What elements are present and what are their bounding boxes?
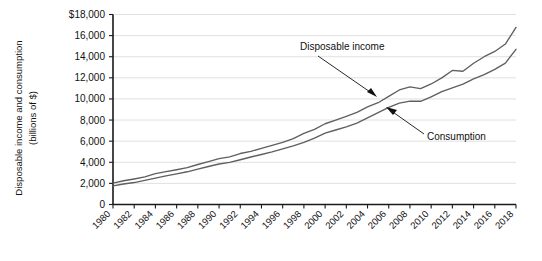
x-tick-label: 1998 [281, 208, 304, 231]
y-axis-label: Disposable income and consumption (billi… [13, 40, 38, 195]
x-tick-label: 1980 [90, 208, 113, 231]
y-tick-label: 14,000 [74, 51, 105, 62]
x-tick-label: 2006 [365, 208, 388, 231]
y-tick-label: 8,000 [80, 115, 105, 126]
x-tick-label: 2012 [429, 208, 452, 231]
x-tick-label: 2016 [471, 208, 494, 231]
x-tick-label: 1990 [196, 208, 219, 231]
annotation-label-consumption: Consumption [427, 131, 486, 142]
x-tick-label: 2008 [387, 208, 410, 231]
x-tick-label: 1984 [132, 208, 155, 231]
gridlines [113, 15, 516, 184]
annotation-consumption: Consumption [386, 107, 486, 142]
annotation-leader-disposable-income [318, 56, 373, 94]
x-tick-label: 2002 [323, 208, 346, 231]
y-axis-label-line2: (billions of $) [27, 91, 38, 145]
x-tick-label: 1996 [259, 208, 282, 231]
y-tick-label: $18,000 [69, 9, 106, 20]
x-tick-label: 2014 [450, 208, 473, 231]
x-tick-label: 2018 [493, 208, 516, 231]
x-tick-label: 1982 [111, 208, 134, 231]
y-tick-label: 6,000 [80, 136, 105, 147]
annotation-disposable-income: Disposable income [300, 41, 385, 97]
x-tick-label: 1994 [238, 208, 261, 231]
y-tick-label: 16,000 [74, 30, 105, 41]
y-axis-label-line1: Disposable income and consumption [13, 40, 24, 195]
chart-figure: Disposable income and consumption (billi… [0, 0, 542, 261]
x-tick-label: 2004 [344, 208, 367, 231]
x-tick-label: 2010 [408, 208, 431, 231]
x-tick-label: 1986 [153, 208, 176, 231]
line-chart: Disposable income and consumption (billi… [0, 0, 542, 261]
x-tick-label: 1992 [217, 208, 240, 231]
x-tick-label: 2000 [302, 208, 325, 231]
annotation-leader-consumption [390, 110, 424, 134]
y-tick-label: 12,000 [74, 72, 105, 83]
annotation-label-disposable-income: Disposable income [300, 41, 385, 52]
arrowhead-disposable-income [367, 88, 377, 97]
y-tick-label: 2,000 [80, 178, 105, 189]
x-tick-label: 1988 [175, 208, 198, 231]
y-tick-labels: 02,0004,0006,0008,00010,00012,00014,0001… [69, 9, 106, 210]
x-tick-labels: 1980198219841986198819901992199419961998… [90, 208, 516, 231]
y-tick-label: 10,000 [74, 93, 105, 104]
series-line-consumption [113, 49, 516, 186]
y-tick-label: 4,000 [80, 157, 105, 168]
